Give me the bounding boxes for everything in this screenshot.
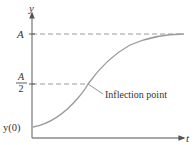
x-axis-label: t: [186, 132, 190, 144]
inflection-leader-line: [88, 84, 103, 94]
tick-label-y0: y(0): [3, 122, 21, 134]
logistic-curve: [33, 34, 184, 127]
y-axis-label: y: [28, 2, 34, 14]
tick-label-A: A: [16, 28, 24, 40]
tick-label-A-half-denominator: 2: [19, 83, 24, 94]
inflection-point-label: Inflection point: [105, 89, 167, 100]
logistic-growth-diagram: y t A A 2 y(0) Inflection point: [0, 0, 194, 145]
tick-label-A-half-numerator: A: [17, 71, 25, 82]
